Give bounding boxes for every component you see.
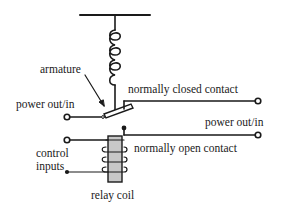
label-inputs: inputs xyxy=(36,161,64,173)
label-armature: armature xyxy=(40,64,81,76)
normally-closed-contact xyxy=(124,98,261,109)
pivot-point xyxy=(102,116,105,119)
armature xyxy=(104,104,133,118)
label-control: control xyxy=(36,148,69,160)
relay-diagram: armature normally closed contact power o… xyxy=(0,0,282,207)
arrowhead-icon xyxy=(99,100,104,106)
control-input-terminals xyxy=(64,137,108,173)
label-power-left: power out/in xyxy=(16,99,74,111)
label-normally-open-contact: normally open contact xyxy=(134,143,237,155)
label-relay-coil: relay coil xyxy=(91,190,134,202)
power-terminal-left xyxy=(64,114,70,120)
label-normally-closed-contact: normally closed contact xyxy=(128,84,238,96)
label-power-right: power out/in xyxy=(205,117,263,129)
spring-icon xyxy=(110,30,121,85)
relay-coil-icon xyxy=(102,136,127,182)
